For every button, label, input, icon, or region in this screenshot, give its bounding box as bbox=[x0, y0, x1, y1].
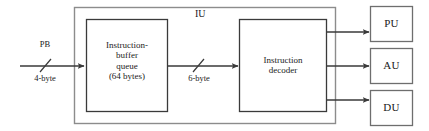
instruction-buffer-queue-box bbox=[87, 20, 168, 112]
instruction-decoder-box bbox=[240, 20, 327, 112]
diagram-canvas: IU Instruction- buffer queue (64 bytes) … bbox=[0, 0, 429, 131]
du-unit-box bbox=[371, 91, 413, 126]
pu-unit-box bbox=[371, 7, 413, 42]
diagram-vector-layer bbox=[0, 0, 429, 131]
au-unit-box bbox=[371, 49, 413, 84]
